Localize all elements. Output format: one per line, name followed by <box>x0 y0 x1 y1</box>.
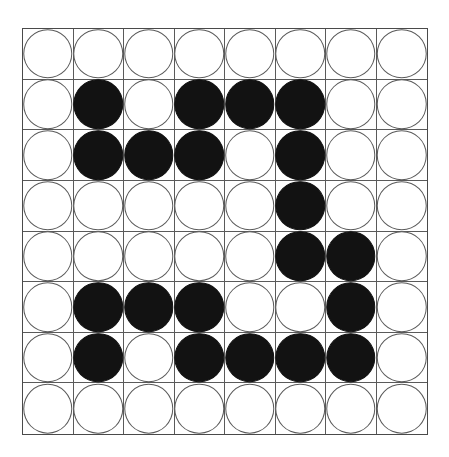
grid-cell-r2-c3[interactable] <box>124 80 175 131</box>
filled-circle-icon[interactable] <box>175 80 225 130</box>
grid-cell-r1-c2[interactable] <box>74 29 125 80</box>
empty-circle-icon[interactable] <box>124 232 174 282</box>
filled-circle-icon[interactable] <box>74 333 124 383</box>
empty-circle-icon[interactable] <box>276 282 326 332</box>
grid-cell-r8-c3[interactable] <box>124 383 175 434</box>
empty-circle-icon[interactable] <box>23 29 73 79</box>
grid-cell-r7-c4[interactable] <box>175 333 226 384</box>
grid-cell-r5-c3[interactable] <box>124 232 175 283</box>
grid-cell-r8-c7[interactable] <box>326 383 377 434</box>
filled-circle-icon[interactable] <box>175 282 225 332</box>
empty-circle-icon[interactable] <box>23 232 73 282</box>
grid-cell-r3-c6[interactable] <box>276 130 327 181</box>
grid-cell-r4-c3[interactable] <box>124 181 175 232</box>
grid-cell-r7-c2[interactable] <box>74 333 125 384</box>
grid-cell-r3-c4[interactable] <box>175 130 226 181</box>
filled-circle-icon[interactable] <box>74 80 124 130</box>
grid-cell-r1-c7[interactable] <box>326 29 377 80</box>
grid-cell-r2-c8[interactable] <box>377 80 428 131</box>
empty-circle-icon[interactable] <box>377 282 428 332</box>
grid-cell-r4-c8[interactable] <box>377 181 428 232</box>
empty-circle-icon[interactable] <box>74 181 124 231</box>
grid-cell-r5-c4[interactable] <box>175 232 226 283</box>
grid-cell-r5-c8[interactable] <box>377 232 428 283</box>
empty-circle-icon[interactable] <box>225 130 275 180</box>
empty-circle-icon[interactable] <box>377 130 428 180</box>
filled-circle-icon[interactable] <box>74 282 124 332</box>
filled-circle-icon[interactable] <box>276 181 326 231</box>
grid-cell-r2-c2[interactable] <box>74 80 125 131</box>
empty-circle-icon[interactable] <box>276 383 326 434</box>
grid-cell-r3-c2[interactable] <box>74 130 125 181</box>
grid-cell-r6-c1[interactable] <box>23 282 74 333</box>
filled-circle-icon[interactable] <box>74 130 124 180</box>
empty-circle-icon[interactable] <box>175 181 225 231</box>
empty-circle-icon[interactable] <box>377 29 428 79</box>
grid-cell-r2-c4[interactable] <box>175 80 226 131</box>
grid-cell-r6-c8[interactable] <box>377 282 428 333</box>
empty-circle-icon[interactable] <box>225 282 275 332</box>
grid-cell-r6-c3[interactable] <box>124 282 175 333</box>
empty-circle-icon[interactable] <box>175 232 225 282</box>
empty-circle-icon[interactable] <box>326 29 376 79</box>
grid-cell-r5-c6[interactable] <box>276 232 327 283</box>
grid-cell-r3-c8[interactable] <box>377 130 428 181</box>
empty-circle-icon[interactable] <box>377 232 428 282</box>
empty-circle-icon[interactable] <box>377 181 428 231</box>
filled-circle-icon[interactable] <box>276 232 326 282</box>
grid-cell-r4-c2[interactable] <box>74 181 125 232</box>
grid-cell-r5-c2[interactable] <box>74 232 125 283</box>
grid-cell-r1-c6[interactable] <box>276 29 327 80</box>
filled-circle-icon[interactable] <box>326 232 376 282</box>
grid-cell-r6-c2[interactable] <box>74 282 125 333</box>
empty-circle-icon[interactable] <box>326 130 376 180</box>
empty-circle-icon[interactable] <box>74 383 124 434</box>
grid-cell-r6-c6[interactable] <box>276 282 327 333</box>
grid-cell-r3-c1[interactable] <box>23 130 74 181</box>
filled-circle-icon[interactable] <box>225 80 275 130</box>
empty-circle-icon[interactable] <box>276 29 326 79</box>
grid-cell-r3-c7[interactable] <box>326 130 377 181</box>
filled-circle-icon[interactable] <box>276 333 326 383</box>
grid-cell-r8-c6[interactable] <box>276 383 327 434</box>
grid-cell-r8-c4[interactable] <box>175 383 226 434</box>
empty-circle-icon[interactable] <box>225 181 275 231</box>
empty-circle-icon[interactable] <box>124 333 174 383</box>
empty-circle-icon[interactable] <box>124 80 174 130</box>
empty-circle-icon[interactable] <box>23 282 73 332</box>
grid-cell-r1-c8[interactable] <box>377 29 428 80</box>
grid-cell-r8-c2[interactable] <box>74 383 125 434</box>
filled-circle-icon[interactable] <box>124 282 174 332</box>
empty-circle-icon[interactable] <box>225 29 275 79</box>
empty-circle-icon[interactable] <box>23 333 73 383</box>
grid-cell-r7-c5[interactable] <box>225 333 276 384</box>
grid-cell-r4-c1[interactable] <box>23 181 74 232</box>
grid-cell-r7-c3[interactable] <box>124 333 175 384</box>
empty-circle-icon[interactable] <box>377 333 428 383</box>
circle-grid-board[interactable] <box>22 28 428 435</box>
grid-cell-r3-c5[interactable] <box>225 130 276 181</box>
grid-cell-r2-c6[interactable] <box>276 80 327 131</box>
grid-cell-r1-c5[interactable] <box>225 29 276 80</box>
grid-cell-r4-c7[interactable] <box>326 181 377 232</box>
grid-cell-r8-c1[interactable] <box>23 383 74 434</box>
filled-circle-icon[interactable] <box>175 333 225 383</box>
grid-cell-r1-c1[interactable] <box>23 29 74 80</box>
grid-cell-r4-c4[interactable] <box>175 181 226 232</box>
grid-cell-r1-c3[interactable] <box>124 29 175 80</box>
filled-circle-icon[interactable] <box>276 80 326 130</box>
empty-circle-icon[interactable] <box>23 383 73 434</box>
filled-circle-icon[interactable] <box>326 333 376 383</box>
grid-cell-r5-c7[interactable] <box>326 232 377 283</box>
grid-cell-r6-c5[interactable] <box>225 282 276 333</box>
grid-cell-r5-c1[interactable] <box>23 232 74 283</box>
empty-circle-icon[interactable] <box>326 80 376 130</box>
grid-cell-r1-c4[interactable] <box>175 29 226 80</box>
empty-circle-icon[interactable] <box>124 29 174 79</box>
filled-circle-icon[interactable] <box>326 282 376 332</box>
empty-circle-icon[interactable] <box>23 181 73 231</box>
empty-circle-icon[interactable] <box>23 130 73 180</box>
grid-cell-r7-c7[interactable] <box>326 333 377 384</box>
filled-circle-icon[interactable] <box>124 130 174 180</box>
grid-cell-r4-c6[interactable] <box>276 181 327 232</box>
